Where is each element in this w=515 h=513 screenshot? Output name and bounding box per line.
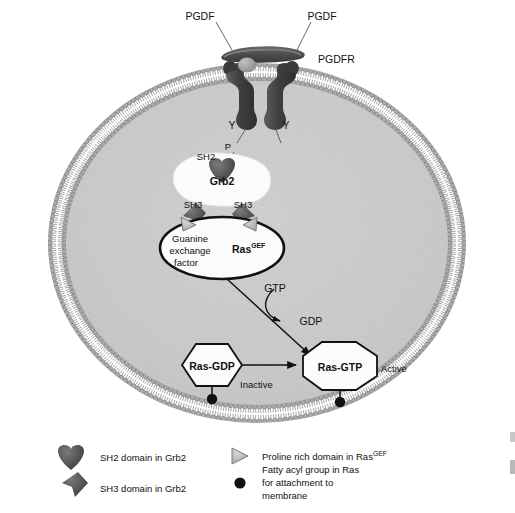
legend-item-fatty-acyl: Fatty acyl group in Ras for attachment t…	[234, 464, 359, 501]
pdgf-ligand-dimer	[221, 46, 305, 63]
grb2-label: Grb2	[210, 175, 235, 187]
sh3-right-label: SH3	[234, 199, 252, 210]
legend-fatty-text-1: Fatty acyl group in Ras	[262, 464, 359, 475]
legend-fatty-text-2: for attachment to	[262, 477, 333, 488]
ras-gdp-label: Ras-GDP	[189, 360, 235, 372]
phosphate-label: P	[225, 141, 231, 152]
legend-sh3-text: SH3 domain in Grb2	[100, 483, 186, 494]
inactive-label: Inactive	[240, 379, 273, 390]
ras-gtp-label: Ras-GTP	[318, 361, 362, 373]
legend: SH2 domain in Grb2 SH3 domain in Grb2 Pr…	[58, 445, 387, 501]
sh2-domain-icon	[58, 445, 84, 470]
tyrosine-left-label: Y	[228, 119, 235, 131]
fatty-acyl-group-icon	[234, 477, 245, 488]
signaling-pathway-figure: PGDF PGDF PGDFR Y Y P SH2 Grb2 SH3 SH3 G…	[0, 0, 515, 513]
diagram-canvas: PGDF PGDF PGDFR Y Y P SH2 Grb2 SH3 SH3 G…	[0, 0, 515, 513]
gef-desc-line2: exchange	[169, 245, 210, 256]
sh3-left-label: SH3	[184, 199, 202, 210]
gef-desc-line3: factor	[174, 257, 198, 268]
pdgf-right-leader	[297, 22, 311, 50]
legend-sh2-text: SH2 domain in Grb2	[100, 452, 186, 463]
pdgfr-label: PGDFR	[318, 53, 355, 65]
pdgf-right-label: PGDF	[307, 10, 336, 22]
gdp-label: GDP	[300, 315, 323, 327]
sh2-label: SH2	[197, 151, 215, 162]
legend-item-sh2: SH2 domain in Grb2	[58, 445, 186, 470]
fatty-acyl-group-gtp-icon	[335, 397, 345, 407]
legend-proline-text: Proline rich domain in RasGEF	[262, 450, 387, 462]
gtp-label: GTP	[264, 282, 286, 294]
pdgf-left-leader	[216, 22, 232, 50]
scan-artifact-2	[510, 460, 515, 474]
gef-desc-line1: Guanine	[172, 233, 208, 244]
legend-item-proline: Proline rich domain in RasGEF	[232, 448, 387, 464]
legend-fatty-text-3: membrane	[262, 490, 307, 501]
active-label: Active	[381, 363, 407, 374]
scan-artifact-1	[510, 432, 515, 442]
sh3-domain-icon	[62, 472, 88, 497]
legend-item-sh3: SH3 domain in Grb2	[62, 472, 186, 497]
pdgf-left-label: PGDF	[185, 10, 214, 22]
fatty-acyl-group-gdp-icon	[207, 394, 217, 404]
pdgf-ligand-lobe	[238, 58, 256, 73]
tyrosine-right-label: Y	[282, 119, 289, 131]
proline-rich-domain-icon	[232, 448, 248, 464]
